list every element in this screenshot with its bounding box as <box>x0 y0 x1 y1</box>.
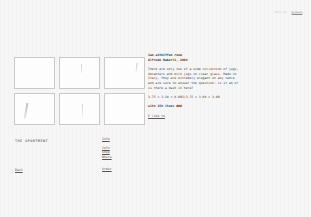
back-link[interactable]: Back <box>15 168 23 172</box>
thumbnail-item[interactable] <box>14 93 55 125</box>
product-dimensions: 3.75 x 3.10 x 0.085/3.75 x 3.60 x 3.08 <box>148 95 240 100</box>
nav-item-info-top[interactable]: Info <box>102 138 112 141</box>
nav-item-where[interactable]: Where <box>102 156 112 159</box>
header-credit-lead: more by <box>275 12 287 15</box>
thumbnail-artwork-icon <box>81 64 82 73</box>
footer-nav: Info Info Shop Where Order <box>102 138 112 173</box>
product-more: E like to <box>148 114 240 119</box>
page-title: THE APARTMENT <box>15 139 48 143</box>
header-credit: more by Artist <box>275 12 303 15</box>
product-info-panel: Jan witkiffen room Alfredo Haberli, 2004… <box>148 53 240 118</box>
nav-item-order[interactable]: Order <box>102 168 112 171</box>
product-edition: with 150 items ### <box>148 104 240 109</box>
thumbnail-item[interactable] <box>14 57 55 89</box>
product-subtitle: Alfredo Haberli, 2004 <box>148 58 240 63</box>
thumbnail-artwork-icon <box>135 63 137 73</box>
thumbnail-artwork-icon <box>24 103 28 119</box>
thumbnail-grid <box>14 57 145 125</box>
header-credit-link[interactable]: Artist <box>291 12 303 15</box>
thumbnail-artwork-icon <box>82 104 83 117</box>
product-description: There are only two of a wide collection … <box>148 67 240 90</box>
more-link[interactable]: E like to <box>148 114 165 118</box>
thumbnail-item[interactable] <box>104 57 145 89</box>
thumbnail-item[interactable] <box>104 93 145 125</box>
thumbnail-item[interactable] <box>59 93 100 125</box>
thumbnail-item[interactable] <box>59 57 100 89</box>
